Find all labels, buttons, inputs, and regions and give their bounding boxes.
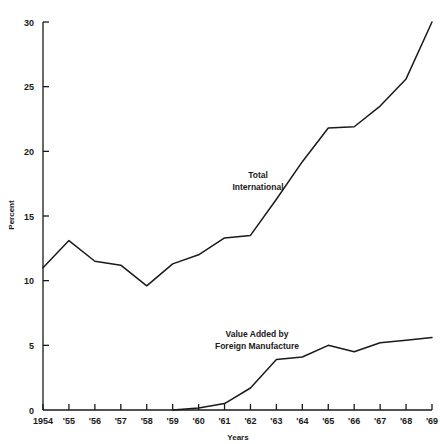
x-axis-tick-label: '69 [426, 416, 438, 426]
series-label-value-added-foreign-manufacture-line2: Foreign Manufacture [215, 341, 299, 351]
x-axis-tick-label: '58 [141, 416, 153, 426]
x-axis-tick-label: '61 [218, 416, 230, 426]
y-axis-tick-label: 25 [24, 82, 34, 92]
x-axis-tick-label: '65 [322, 416, 334, 426]
y-axis-tick-label: 30 [24, 18, 34, 28]
y-axis-tick-label: 20 [24, 147, 34, 157]
x-axis-tick-label: '64 [296, 416, 308, 426]
x-axis-tick-label: '62 [244, 416, 256, 426]
x-axis-tick-label: '55 [63, 416, 75, 426]
series-label-total-international-line2: International [232, 182, 283, 192]
x-axis-tick-label: 1954 [33, 416, 53, 426]
y-axis-tick-label: 0 [29, 406, 34, 416]
line-chart: 051015202530 1954'55'56'57'58'59'60'61'6… [0, 0, 440, 444]
y-axis-tick-label: 10 [24, 276, 34, 286]
x-axis-tick-label: '56 [89, 416, 101, 426]
x-axis-tick-label: '68 [400, 416, 412, 426]
y-axis-tick-label: 15 [24, 212, 34, 222]
series-label-value-added-foreign-manufacture-line1: Value Added by [226, 329, 289, 339]
chart-container: 051015202530 1954'55'56'57'58'59'60'61'6… [0, 0, 440, 444]
x-axis-tick-label: '66 [348, 416, 360, 426]
chart-background [0, 0, 440, 444]
y-axis-tick-label: 5 [29, 341, 34, 351]
x-axis-tick-label: '60 [193, 416, 205, 426]
y-axis-title: Percent [7, 200, 16, 230]
series-label-total-international-line1: Total [248, 170, 268, 180]
x-axis-tick-label: '67 [374, 416, 386, 426]
x-axis-tick-label: '63 [270, 416, 282, 426]
x-axis-tick-label: '59 [167, 416, 179, 426]
x-axis-title: Years [227, 433, 249, 442]
x-axis-tick-label: '57 [115, 416, 127, 426]
